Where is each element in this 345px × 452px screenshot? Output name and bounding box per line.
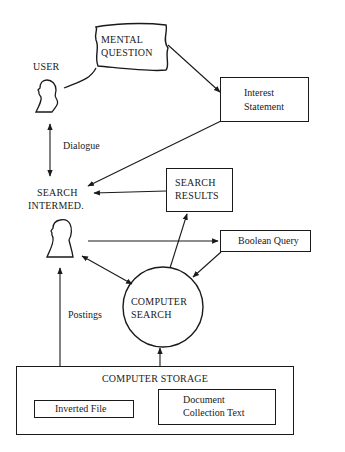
document-collection-line1: Document <box>183 394 225 406</box>
inverted-file-box: Inverted File <box>34 400 134 418</box>
interest-statement-line1: Interest <box>244 87 274 99</box>
boolean-query-box: Boolean Query <box>220 230 311 252</box>
mental-question-line1: MENTAL <box>101 34 143 46</box>
computer-search-line1: COMPUTER <box>131 296 187 308</box>
boolean-query-label: Boolean Query <box>238 235 299 247</box>
search-results-line1: SEARCH <box>175 177 216 189</box>
thought-link <box>64 68 96 88</box>
search-results-line2: RESULTS <box>175 190 219 202</box>
search-intermediary-line1: SEARCH <box>37 187 78 199</box>
computer-storage-box: COMPUTER STORAGE Inverted File Document … <box>16 366 294 435</box>
search-intermediary-line2: INTERMED. <box>28 200 84 212</box>
dialogue-label: Dialogue <box>63 140 100 152</box>
postings-label: Postings <box>68 309 102 321</box>
computer-search-line2: SEARCH <box>131 309 172 321</box>
computer-storage-label: COMPUTER STORAGE <box>102 373 208 385</box>
user-head-icon <box>36 80 58 112</box>
interest-statement-line2: Statement <box>244 101 284 113</box>
inverted-file-label: Inverted File <box>55 403 106 415</box>
user-label: USER <box>33 61 59 73</box>
search-intermediary-head-icon <box>47 220 73 257</box>
document-collection-box: Document Collection Text <box>158 389 276 425</box>
interest-statement-box: Interest Statement <box>220 77 309 122</box>
document-collection-line2: Collection Text <box>183 407 245 419</box>
mental-question-line2: QUESTION <box>101 47 153 59</box>
search-results-box: SEARCH RESULTS <box>166 168 233 212</box>
